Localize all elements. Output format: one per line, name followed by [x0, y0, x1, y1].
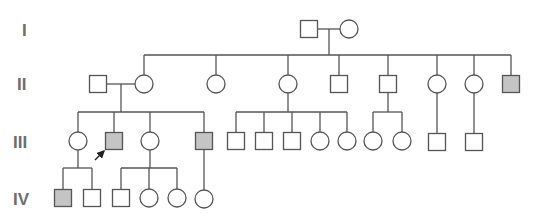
male-square-affected — [503, 76, 520, 93]
female-circle — [428, 75, 446, 93]
female-circle — [364, 132, 382, 150]
relationship-lines — [63, 29, 511, 190]
male-square — [113, 190, 130, 207]
generation-label: I — [22, 21, 27, 40]
proband-arrow-icon — [95, 151, 104, 160]
male-square — [331, 76, 348, 93]
male-square — [380, 76, 397, 93]
female-circle — [338, 132, 356, 150]
generation-label: III — [13, 133, 27, 152]
male-square — [284, 133, 301, 150]
female-circle — [168, 189, 186, 207]
generation-label: IV — [13, 190, 30, 209]
female-circle — [135, 75, 153, 93]
male-square — [256, 133, 273, 150]
pedigree-chart: IIIIIIIV — [0, 0, 534, 224]
female-circle — [141, 132, 159, 150]
male-square — [301, 21, 318, 38]
male-square-affected-proband — [106, 133, 123, 150]
male-square — [466, 134, 483, 151]
female-circle — [279, 75, 297, 93]
male-square-affected — [196, 133, 213, 150]
male-square — [90, 76, 107, 93]
female-circle — [465, 75, 483, 93]
male-square — [84, 190, 101, 207]
female-circle — [140, 189, 158, 207]
male-square-affected — [55, 190, 72, 207]
female-circle — [195, 190, 213, 208]
proband-arrow — [95, 151, 104, 160]
female-circle — [393, 132, 411, 150]
female-circle — [69, 132, 87, 150]
female-circle — [207, 75, 225, 93]
generation-labels: IIIIIIIV — [13, 21, 30, 209]
generation-label: II — [17, 75, 26, 94]
female-circle — [311, 132, 329, 150]
male-square — [429, 134, 446, 151]
female-circle — [340, 20, 358, 38]
individuals — [55, 20, 520, 208]
male-square — [228, 133, 245, 150]
